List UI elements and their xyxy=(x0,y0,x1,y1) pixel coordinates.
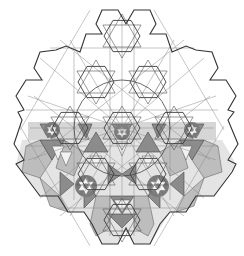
construction-lines xyxy=(20,10,224,246)
construction-line xyxy=(70,40,122,128)
construction-line xyxy=(154,10,224,130)
geometric-pattern-diagram xyxy=(0,0,244,256)
construction-line xyxy=(20,10,90,130)
construction-line xyxy=(122,40,174,128)
